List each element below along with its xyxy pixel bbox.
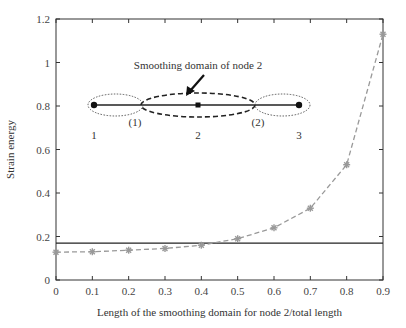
node-1 [91, 102, 97, 108]
node-label-3: 3 [296, 129, 302, 141]
node-2 [196, 103, 201, 108]
arrow-shaft [190, 75, 204, 91]
node-label-2: 2 [195, 129, 201, 141]
x-tick-label: 0.4 [194, 285, 208, 297]
y-tick-label: 1 [45, 57, 51, 69]
node-label-1: 1 [91, 129, 97, 141]
x-tick-label: 0.2 [122, 285, 136, 297]
x-axis-label: Length of the smoothing domain for node … [97, 306, 343, 318]
y-tick-label: 0.6 [36, 144, 50, 156]
x-tick-label: 0.6 [267, 285, 281, 297]
x-tick-label: 0.9 [376, 285, 390, 297]
y-axis-label: Strain energy [4, 120, 16, 179]
inset-title: Smoothing domain of node 2 [134, 59, 262, 71]
x-tick-label: 0.5 [231, 285, 245, 297]
y-tick-label: 1.2 [36, 13, 50, 25]
y-tick-label: 0 [45, 274, 51, 286]
y-tick-label: 0.4 [36, 187, 50, 199]
boundary-label-1: (1) [129, 116, 142, 129]
x-tick-label: 0.1 [85, 285, 99, 297]
x-tick-label: 0.8 [340, 285, 354, 297]
boundary-label-2: (2) [252, 116, 265, 129]
y-tick-label: 0.8 [36, 100, 50, 112]
node-3 [296, 102, 302, 108]
x-tick-label: 0.7 [303, 285, 317, 297]
x-tick-label: 0 [53, 285, 59, 297]
x-tick-label: 0.3 [158, 285, 172, 297]
strain-energy-chart: 00.10.20.30.40.50.60.70.80.900.20.40.60.… [0, 0, 406, 328]
y-tick-label: 0.2 [36, 231, 50, 243]
